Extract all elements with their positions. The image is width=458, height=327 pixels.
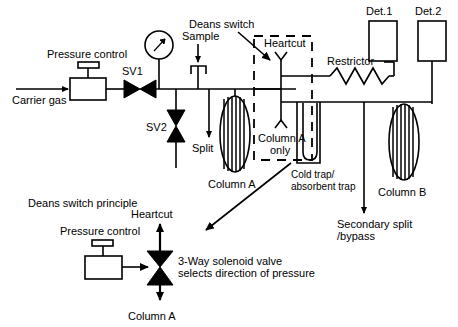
pressure-control-regulator [70,62,106,100]
column-a-coil-icon [220,89,250,172]
column-a-label: Column A [208,178,256,190]
column-a-only-label-line2: only [270,144,291,156]
pressure-control-label-top: Pressure control [47,48,127,60]
deans-switch-diagram: Carrier gas Pressure control SV1 [0,0,458,327]
figure-canvas: Carrier gas Pressure control SV1 [0,0,458,327]
column-a-label-principle: Column A [128,310,176,322]
column-a-only-label-line1: Column A [258,132,306,144]
secondary-split-label-line2: /bypass [337,230,375,242]
carrier-gas-label: Carrier gas [12,94,67,106]
valve-description-line2: selects direction of pressure [178,267,315,279]
sv2-label: SV2 [146,121,167,133]
principle-title: Deans switch principle [28,197,137,209]
column-b-label: Column B [378,186,426,198]
deans-switch-label: Deans switch [189,18,254,30]
secondary-split-label-line1: Secondary split [337,218,412,230]
det2-label: Det.2 [415,5,441,17]
pressure-control-regulator-principle [85,240,148,279]
valve-description-line1: 3-Way solenoid valve [178,255,282,267]
sv1-label: SV1 [122,65,143,77]
heartcut-label-principle: Heartcut [131,208,173,220]
detector-2-box [418,21,446,104]
det1-label: Det.1 [366,5,392,17]
principle-callout-arrow [206,163,291,230]
deans-switch-junction [255,52,330,128]
column-b-coil-icon [389,104,419,180]
sample-label: Sample [182,30,219,42]
cold-trap-label-line2: absorbent trap [291,181,356,192]
restrictor-label: Restrictor [327,55,374,67]
three-way-solenoid-valve-icon [147,251,173,285]
cold-trap-label-line1: Cold trap/ [291,169,335,180]
sample-inlet-icon [191,44,206,89]
sv2-branch [167,89,185,168]
split-label: Split [192,142,213,154]
sv1-valve-icon [124,80,156,98]
pressure-gauge-icon [145,31,173,89]
pressure-control-label-principle: Pressure control [60,225,140,237]
heartcut-label-top: Heartcut [264,37,306,49]
